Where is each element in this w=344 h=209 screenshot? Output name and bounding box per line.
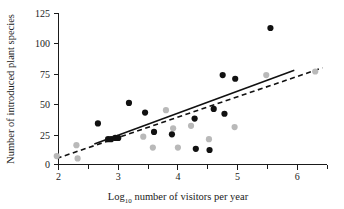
data-point xyxy=(142,109,148,115)
x-axis-tick-labels: 2 3 4 5 6 xyxy=(56,171,300,182)
data-point xyxy=(188,123,194,129)
data-point xyxy=(221,111,227,117)
data-point xyxy=(206,147,212,153)
data-point xyxy=(115,135,121,141)
x-tick-label-6: 6 xyxy=(295,171,300,182)
x-tick-label-2: 2 xyxy=(56,171,61,182)
data-point xyxy=(126,100,132,106)
data-point xyxy=(263,72,269,78)
data-point xyxy=(163,107,169,113)
x-axis-minor-ticks xyxy=(88,165,327,170)
x-tick-label-5: 5 xyxy=(235,171,240,182)
data-point xyxy=(95,120,101,126)
data-point xyxy=(75,155,81,161)
data-point xyxy=(193,146,199,152)
scatter-plot-figure: 125 100 75 50 25 0 2 3 4 5 xyxy=(0,0,344,209)
data-point xyxy=(73,142,79,148)
y-axis-ticks xyxy=(54,14,59,165)
y-axis-title: Number of introduced plant species xyxy=(5,14,16,164)
data-point xyxy=(232,124,238,130)
dashed-regression-line xyxy=(57,68,323,159)
y-tick-label-100: 100 xyxy=(35,38,50,49)
data-point xyxy=(267,25,273,31)
x-tick-label-3: 3 xyxy=(116,171,121,182)
x-axis-title-rest: number of visitors per year xyxy=(132,191,249,202)
y-axis-tick-labels: 125 100 75 50 25 0 xyxy=(35,8,50,170)
data-point xyxy=(170,125,176,131)
data-point xyxy=(175,144,181,150)
x-axis-title-base: Log xyxy=(108,191,126,202)
data-point xyxy=(140,134,146,140)
solid-regression-line xyxy=(94,70,294,144)
y-tick-label-0: 0 xyxy=(45,159,50,170)
data-point xyxy=(312,68,318,74)
y-tick-label-125: 125 xyxy=(35,8,50,19)
x-axis-ticks xyxy=(59,165,298,171)
regression-lines xyxy=(57,68,323,159)
data-point xyxy=(150,144,156,150)
plot-canvas: 125 100 75 50 25 0 2 3 4 5 xyxy=(0,0,344,209)
data-point xyxy=(192,115,198,121)
x-tick-label-4: 4 xyxy=(175,171,180,182)
y-tick-label-75: 75 xyxy=(40,69,50,80)
data-point xyxy=(232,76,238,82)
x-axis-title: Log10 number of visitors per year xyxy=(108,191,249,205)
data-point xyxy=(211,106,217,112)
data-point xyxy=(206,136,212,142)
data-point xyxy=(54,153,60,159)
data-point xyxy=(169,131,175,137)
y-tick-label-50: 50 xyxy=(40,99,50,110)
data-point xyxy=(220,72,226,78)
y-tick-label-25: 25 xyxy=(40,130,50,141)
data-point xyxy=(151,129,157,135)
